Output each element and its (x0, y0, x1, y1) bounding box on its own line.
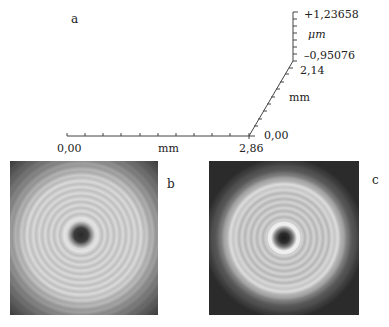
panel-label-c: c (372, 173, 379, 187)
y-axis-max: 2,14 (300, 65, 325, 77)
z-axis-min: –0,95076 (304, 50, 355, 62)
y-axis-unit: mm (289, 92, 310, 104)
x-axis-max: 2,86 (239, 143, 264, 155)
interferogram-simulated-image (209, 161, 359, 315)
panel-label-b: b (167, 177, 175, 191)
x-axis-unit: mm (158, 143, 179, 155)
3d-axes (0, 0, 389, 160)
x-axis-min: 0,00 (57, 143, 82, 155)
interferogram-measured-image (10, 161, 158, 315)
y-axis-min: 0,00 (264, 130, 289, 142)
z-axis-unit: μm (308, 29, 326, 41)
z-axis-max: +1,23658 (304, 9, 359, 21)
